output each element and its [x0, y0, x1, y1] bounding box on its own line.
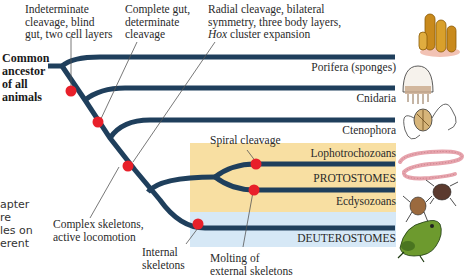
animal-icons [0, 0, 465, 278]
mite-icon [403, 180, 458, 222]
worm-icon [400, 152, 462, 179]
jellyfish-icon [403, 66, 433, 104]
comb-jelly-icon [404, 104, 456, 139]
frog-icon [398, 220, 441, 262]
sponge-icon [419, 14, 460, 57]
